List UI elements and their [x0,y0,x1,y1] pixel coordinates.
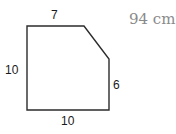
area-exponent: 2 [175,9,176,19]
bottom-side-label: 10 [61,115,74,127]
area-value: 94 cm [129,10,175,28]
pentagon-outline [27,26,109,110]
left-side-label: 10 [5,64,18,76]
top-side-label: 7 [51,9,58,21]
area-answer: 94 cm2 [129,12,176,27]
right-side-label: 6 [113,79,120,91]
